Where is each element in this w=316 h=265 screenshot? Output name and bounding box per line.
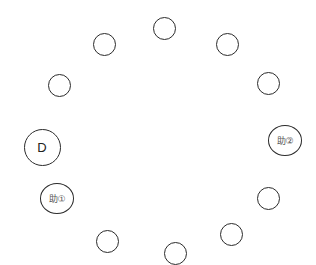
seat-dealer-label: D	[37, 140, 46, 155]
seat-lower-right	[220, 223, 243, 246]
seat-left-upper	[48, 74, 71, 97]
seat-assist-2: 助②	[268, 125, 302, 156]
seat-upper-left	[93, 33, 116, 56]
seat-top	[153, 17, 176, 40]
seat-dealer: D	[24, 129, 61, 166]
seat-lower-left	[96, 230, 119, 253]
seat-assist-1-label: 助①	[49, 192, 65, 205]
seat-right-upper	[257, 72, 280, 95]
seat-assist-2-label: 助②	[277, 134, 293, 147]
seat-bottom	[164, 242, 187, 265]
seat-upper-right	[216, 33, 239, 56]
seat-right-lower	[257, 187, 280, 210]
seat-assist-1: 助①	[40, 183, 74, 214]
